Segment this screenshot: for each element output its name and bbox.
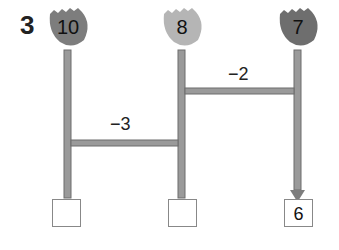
pipe-3 — [294, 50, 301, 190]
flower-value-1: 10 — [48, 16, 88, 39]
answer-box-1[interactable] — [52, 199, 81, 227]
connector-1-2 — [71, 140, 178, 146]
flower-value-3: 7 — [278, 16, 318, 39]
pipe-1 — [64, 50, 71, 198]
flower-value-2: 8 — [162, 16, 202, 39]
answer-box-2[interactable] — [168, 199, 197, 227]
operation-label-1: −3 — [110, 114, 131, 135]
connector-2-3 — [185, 88, 294, 94]
operation-label-2: −2 — [228, 64, 249, 85]
pipe-2 — [178, 50, 185, 198]
answer-box-3[interactable]: 6 — [284, 199, 313, 227]
